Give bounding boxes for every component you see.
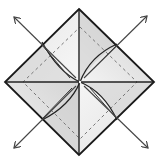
center-point bbox=[79, 81, 81, 83]
fold-diagram-svg bbox=[0, 0, 165, 164]
origami-diagram bbox=[0, 0, 165, 164]
